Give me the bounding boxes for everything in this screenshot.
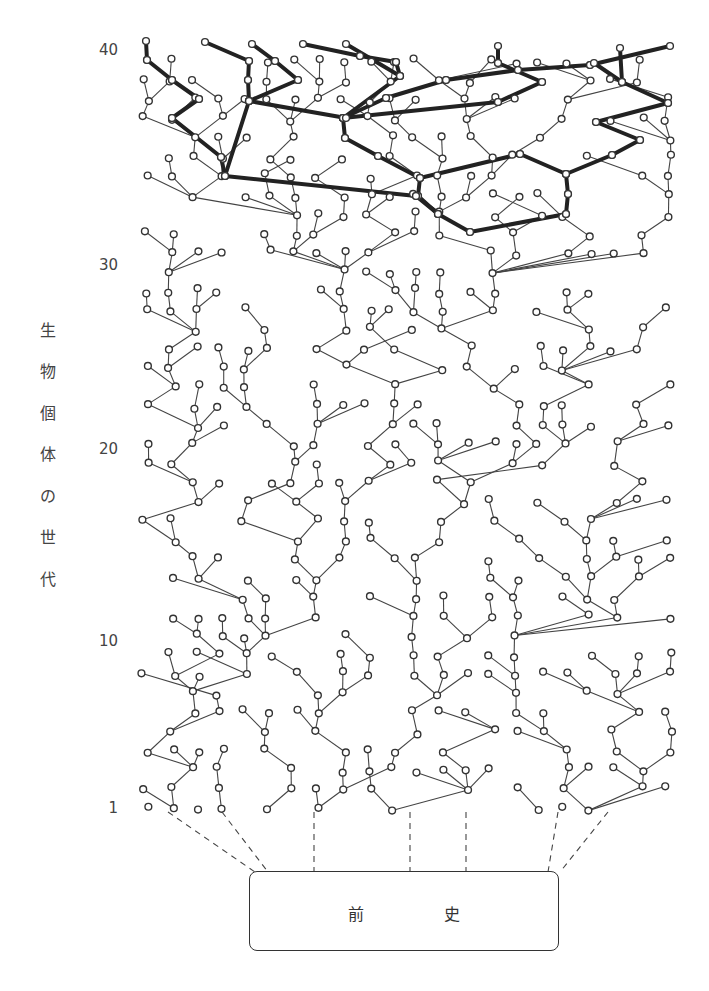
prehistory-label: 前史 (250, 901, 558, 925)
genealogy-tree (0, 0, 709, 991)
prehistory-box: 前史 (249, 871, 559, 951)
prehistory-label-left: 前 (348, 901, 364, 925)
prehistory-label-right: 史 (444, 901, 460, 925)
